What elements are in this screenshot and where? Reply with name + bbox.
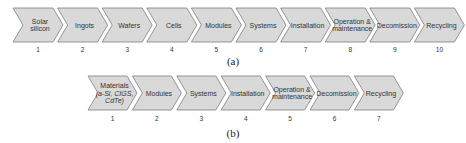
step-label: Decomission [316, 90, 356, 97]
step-label: CdTe) [105, 97, 124, 105]
step-number: 10 [436, 46, 444, 53]
step-label: Decomission [377, 22, 417, 29]
step-number: 2 [81, 46, 85, 53]
step-number: 7 [304, 46, 308, 53]
step-number: 5 [215, 46, 219, 53]
step-label: Recycling [426, 22, 456, 30]
step-number: 3 [199, 115, 203, 122]
step-label: silicon [30, 25, 50, 32]
step-label: Wafers [118, 22, 140, 29]
step-label: Materials [100, 82, 129, 89]
step-label: Recycling [366, 90, 396, 98]
step-number: 2 [155, 115, 159, 122]
step-label: Solar [32, 18, 49, 25]
step-number: 1 [111, 115, 115, 122]
value-chain-row-b: Materials(a-Si, CIGS,CdTe)1Modules2Syste… [88, 76, 403, 122]
step-number: 1 [36, 46, 40, 53]
caption-a: (a) [227, 55, 240, 68]
step-number: 4 [244, 115, 248, 122]
step-number: 6 [333, 115, 337, 122]
step-number: 3 [125, 46, 129, 53]
pv-value-chain-diagram: Solarsilicon1Ingots2Wafers3Cells4Modules… [0, 0, 466, 143]
step-label: Installation [291, 22, 325, 29]
step-label: Installation [231, 90, 265, 97]
step-number: 9 [393, 46, 397, 53]
step-number: 5 [288, 115, 292, 122]
value-chain-row-a: Solarsilicon1Ingots2Wafers3Cells4Modules… [13, 8, 464, 53]
step-label: Cells [166, 22, 182, 29]
step-label: Systems [250, 22, 277, 30]
step-number: 7 [377, 115, 381, 122]
step-number: 6 [259, 46, 263, 53]
step-label: Modules [146, 90, 173, 97]
step-label: maintenance [332, 25, 372, 32]
step-label: Modules [205, 22, 232, 29]
step-number: 8 [348, 46, 352, 53]
step-label: Ingots [75, 22, 95, 30]
step-label: Systems [190, 90, 217, 98]
step-number: 4 [170, 46, 174, 53]
caption-b: (b) [227, 127, 240, 140]
step-label: maintenance [272, 93, 312, 100]
